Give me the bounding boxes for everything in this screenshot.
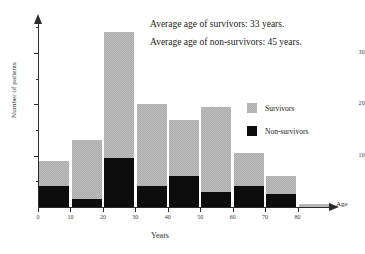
x-tick-label-80: 80 [288, 214, 308, 220]
x-tick-80 [298, 207, 299, 212]
x-tick-40 [168, 207, 169, 212]
x-tick-20 [103, 207, 104, 212]
bar-segment-non-survivors [104, 158, 134, 207]
bar-segment-non-survivors [201, 192, 231, 207]
y-tick-label-10: 10 [341, 152, 365, 158]
x-tick-label-0: 0 [28, 214, 48, 220]
bar-segment-non-survivors [39, 186, 69, 207]
x-tick-label-70: 70 [255, 214, 275, 220]
legend-label-survivors: Survivors [265, 104, 294, 113]
annotation-survivors-avg-age: Average age of survivors: 33 years. [150, 19, 284, 29]
bar-60-70 [234, 153, 264, 207]
bar-0-10 [39, 161, 69, 207]
bar-segment-survivors [137, 104, 167, 186]
x-tick-50 [200, 207, 201, 212]
non-survivors-swatch-icon [247, 126, 257, 136]
x-axis-line [38, 207, 330, 208]
x-tick-label-40: 40 [158, 214, 178, 220]
legend-label-non-survivors: Non-survivors [265, 127, 308, 136]
x-tick-60 [233, 207, 234, 212]
x-tick-30 [135, 207, 136, 212]
bar-segment-survivors [234, 153, 264, 186]
x-tick-label-20: 20 [93, 214, 113, 220]
legend-item-survivors: Survivors [247, 103, 308, 113]
bar-segment-survivors [72, 140, 102, 199]
bar-segment-non-survivors [169, 176, 199, 207]
y-tick-label-20: 20 [341, 100, 365, 106]
bar-40-50 [169, 120, 199, 207]
bar-segment-non-survivors [72, 199, 102, 207]
y-tick-label-30: 30 [341, 49, 365, 55]
legend-item-non-survivors: Non-survivors [247, 126, 308, 136]
x-tick-label-10: 10 [60, 214, 80, 220]
annotation-nonsurvivors-avg-age: Average age of non-survivors: 45 years. [150, 37, 302, 47]
bar-segment-survivors [104, 32, 134, 158]
survivors-swatch-icon [247, 103, 257, 113]
bar-segment-non-survivors [137, 186, 167, 207]
bar-70-80 [266, 176, 296, 207]
bar-segment-survivors [266, 176, 296, 194]
x-axis-title: Years [100, 231, 220, 240]
x-tick-10 [70, 207, 71, 212]
bar-segment-non-survivors [234, 186, 264, 207]
bar-30-40 [137, 104, 167, 207]
bar-segment-survivors [201, 107, 231, 192]
chart-legend: Survivors Non-survivors [247, 103, 308, 149]
x-tick-label-30: 30 [125, 214, 145, 220]
x-tick-70 [265, 207, 266, 212]
bar-50-60 [201, 107, 231, 207]
x-axis-end-label: Age [336, 200, 348, 208]
x-tick-label-50: 50 [190, 214, 210, 220]
bar-20-30 [104, 32, 134, 207]
bar-segment-survivors [39, 161, 69, 187]
bar-segment-survivors [169, 120, 199, 177]
bar-10-20 [72, 140, 102, 207]
bar-segment-non-survivors [266, 194, 296, 207]
x-tick-0 [38, 207, 39, 212]
bar-segment-survivors [299, 204, 329, 207]
bar-80-90 [299, 204, 329, 207]
chart-figure: 102030 Number of patients 01020304050607… [0, 0, 365, 254]
y-axis-title: Number of patients [10, 35, 18, 145]
x-tick-label-60: 60 [223, 214, 243, 220]
